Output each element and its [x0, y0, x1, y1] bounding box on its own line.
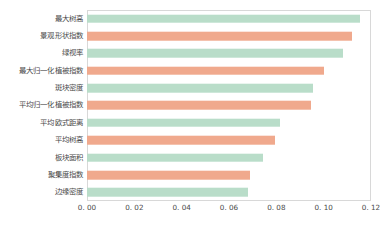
bar-row: 边缘密度 [87, 184, 371, 201]
bar [87, 84, 313, 93]
bar [87, 101, 311, 110]
bar-row: 平均归一化植被指数 [87, 97, 371, 114]
bar-row: 绿视率 [87, 45, 371, 62]
category-label: 平均树高 [55, 137, 83, 144]
x-axis: 0. 000. 020. 040. 060. 080. 100. 12 [87, 201, 371, 223]
bar-row: 聚集度指数 [87, 166, 371, 183]
x-tick-label: 0. 10 [315, 204, 333, 211]
bar [87, 188, 248, 197]
bar [87, 136, 275, 145]
bar [87, 14, 360, 23]
category-label: 绿视率 [62, 50, 83, 57]
bar [87, 32, 352, 41]
bar-row: 斑块密度 [87, 79, 371, 96]
bar [87, 153, 263, 162]
x-tick-label: 0. 04 [173, 204, 191, 211]
category-label: 平均欧式距离 [40, 119, 83, 126]
category-label: 聚集度指数 [48, 171, 84, 178]
bar-chart: 最大树高景观形状指数绿视率最大归一化植被指数斑块密度平均归一化植被指数平均欧式距… [0, 0, 385, 228]
bar-row: 景观形状指数 [87, 27, 371, 44]
bar [87, 49, 343, 58]
category-label: 平均归一化植被指数 [19, 102, 83, 109]
bar-row: 最大归一化植被指数 [87, 62, 371, 79]
x-tick-label: 0. 06 [220, 204, 238, 211]
bar [87, 119, 280, 128]
x-tick-label: 0. 02 [125, 204, 143, 211]
category-label: 最大树高 [55, 15, 83, 22]
x-tick-label: 0. 08 [267, 204, 285, 211]
bar-row: 最大树高 [87, 10, 371, 27]
x-tick-label: 0. 12 [362, 204, 380, 211]
bar-row: 平均欧式距离 [87, 114, 371, 131]
category-label: 景观形状指数 [40, 32, 83, 39]
bar-row: 板块面积 [87, 149, 371, 166]
bar [87, 66, 324, 75]
bar [87, 171, 250, 180]
category-label: 边缘密度 [55, 189, 83, 196]
category-label: 板块面积 [55, 154, 83, 161]
category-label: 最大归一化植被指数 [19, 67, 83, 74]
bar-row: 平均树高 [87, 132, 371, 149]
category-label: 斑块密度 [55, 84, 83, 91]
x-tick-label: 0. 00 [78, 204, 96, 211]
